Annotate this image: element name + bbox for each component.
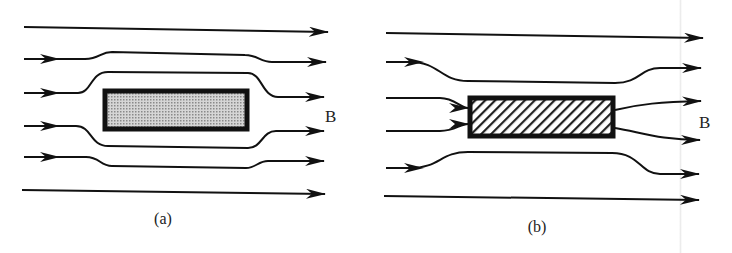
caption-a: (a) — [154, 210, 172, 228]
sample-b-rectangle — [470, 98, 613, 136]
field-line — [24, 157, 324, 168]
sample-a-rectangle — [105, 91, 247, 129]
field-label-b: B — [699, 113, 710, 132]
field-line — [615, 101, 701, 110]
caption-b: (b) — [528, 218, 547, 236]
magnetic-field-figure: B (a) B (b) — [0, 0, 732, 253]
field-line — [384, 196, 699, 200]
field-line — [24, 27, 328, 32]
field-line — [386, 33, 703, 38]
field-line — [22, 190, 325, 194]
field-line — [392, 62, 701, 83]
field-line — [386, 124, 468, 131]
field-line — [24, 52, 326, 62]
field-line — [615, 128, 700, 140]
field-line — [386, 152, 699, 174]
field-line — [386, 98, 468, 108]
field-label-a: B — [325, 107, 336, 126]
